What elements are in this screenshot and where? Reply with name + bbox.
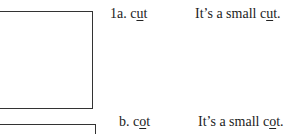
item-b-word: b. cot bbox=[119, 114, 150, 130]
word: cot bbox=[133, 114, 150, 129]
item-1a-sentence: It’s a small cut. bbox=[195, 6, 281, 22]
item-label: 1a. bbox=[110, 6, 127, 21]
item-label: b. bbox=[119, 114, 130, 129]
picture-box-cot bbox=[0, 124, 96, 134]
picture-box-cut bbox=[0, 11, 93, 109]
item-1a-word: 1a. cut bbox=[110, 6, 147, 22]
word: cut bbox=[130, 6, 147, 21]
item-b-sentence: It’s a small cot. bbox=[198, 114, 284, 130]
